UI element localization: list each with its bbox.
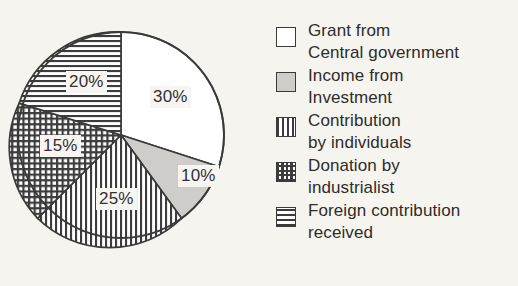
legend-label-income-from-investment: Income from Investment	[306, 65, 404, 109]
legend-label-line1: Income from	[308, 65, 404, 87]
pie-chart-area: 30% 10% 25% 15% 20%	[0, 0, 260, 286]
legend-label-line1: Grant from	[308, 20, 459, 42]
legend-label-line1: Donation by	[308, 155, 400, 177]
legend-item-foreign-contribution-received: Foreign contribution received	[276, 200, 518, 244]
legend-swatch-cell	[276, 20, 306, 47]
legend-item-income-from-investment: Income from Investment	[276, 65, 518, 109]
legend-label-line2: Central government	[308, 42, 459, 64]
legend-swatch-cell	[276, 65, 306, 92]
swatch-white-icon	[276, 27, 296, 47]
legend-label-line2: industrialist	[308, 177, 400, 199]
legend-item-donation-by-industrialist: Donation by industrialist	[276, 155, 518, 199]
legend-label-foreign-contribution-received: Foreign contribution received	[306, 200, 460, 244]
legend-label-line1: Foreign contribution	[308, 200, 460, 222]
legend-swatch-cell	[276, 200, 306, 227]
legend-item-contribution-by-individuals: Contribution by individuals	[276, 110, 518, 154]
pie-chart-figure: 30% 10% 25% 15% 20% Grant from Central g…	[0, 0, 518, 286]
swatch-vertical-lines-icon	[276, 117, 296, 137]
legend: Grant from Central government Income fro…	[276, 20, 518, 245]
legend-label-line1: Contribution	[308, 110, 411, 132]
swatch-cross-hatch-icon	[276, 162, 296, 182]
legend-label-donation-by-industrialist: Donation by industrialist	[306, 155, 400, 199]
pie-chart-svg	[0, 0, 260, 286]
legend-label-contribution-by-individuals: Contribution by individuals	[306, 110, 411, 154]
pie-label-30: 30%	[150, 86, 191, 108]
swatch-gray-solid-icon	[276, 72, 296, 92]
legend-label-grant-central-government: Grant from Central government	[306, 20, 459, 64]
swatch-horizontal-lines-icon	[276, 207, 296, 227]
pie-label-10: 10%	[178, 165, 219, 187]
legend-swatch-cell	[276, 110, 306, 137]
pie-label-15: 15%	[40, 135, 81, 157]
legend-label-line2: Investment	[308, 87, 404, 109]
legend-label-line2: by individuals	[308, 132, 411, 154]
legend-swatch-cell	[276, 155, 306, 182]
pie-label-25: 25%	[96, 188, 137, 210]
legend-label-line2: received	[308, 222, 460, 244]
pie-label-20: 20%	[66, 71, 107, 93]
legend-item-grant-central-government: Grant from Central government	[276, 20, 518, 64]
